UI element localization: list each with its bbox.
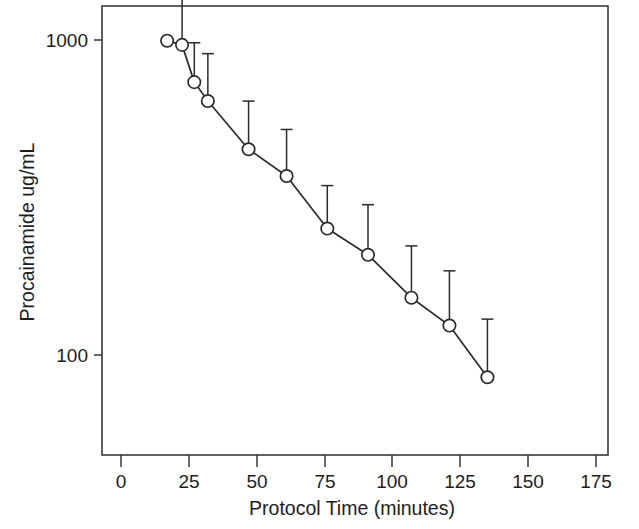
error-bar (321, 186, 333, 223)
y-axis-ticks (94, 40, 102, 355)
x-tick-label-50: 50 (246, 471, 267, 492)
data-point-marker (202, 95, 214, 107)
x-axis-title: Protocol Time (minutes) (249, 497, 455, 519)
data-point-marker (443, 319, 455, 331)
x-tick-label-0: 0 (116, 471, 127, 492)
data-point-marker (176, 39, 188, 51)
chart-canvas: 1000 100 0 25 50 75 100 125 150 175 Prot… (0, 0, 639, 529)
error-bar (202, 54, 214, 95)
x-tick-label-100: 100 (376, 471, 408, 492)
x-tick-label-25: 25 (178, 471, 199, 492)
data-point-marker (481, 371, 493, 383)
x-axis-ticks (121, 455, 596, 467)
data-point-marker (161, 34, 173, 46)
x-tick-label-75: 75 (314, 471, 335, 492)
error-bar (405, 246, 417, 292)
data-point-marker (242, 143, 254, 155)
y-tick-label-1000: 1000 (46, 30, 88, 51)
data-point-marker (280, 170, 292, 182)
data-point-marker (362, 249, 374, 261)
error-bar (281, 129, 293, 170)
error-bar (481, 319, 493, 371)
data-point-marker (405, 292, 417, 304)
error-bar (362, 205, 374, 249)
data-point-marker (188, 76, 200, 88)
error-bar (443, 271, 455, 320)
x-tick-label-125: 125 (444, 471, 476, 492)
data-series-layer (161, 0, 494, 383)
y-tick-label-100: 100 (56, 345, 88, 366)
chart-figure: 1000 100 0 25 50 75 100 125 150 175 Prot… (0, 0, 639, 529)
plot-frame (102, 6, 608, 455)
x-tick-label-175: 175 (580, 471, 612, 492)
x-tick-label-150: 150 (512, 471, 544, 492)
error-bar (243, 101, 255, 143)
y-axis-title: Procainamide ug/mL (16, 142, 38, 321)
data-point-marker (321, 222, 333, 234)
